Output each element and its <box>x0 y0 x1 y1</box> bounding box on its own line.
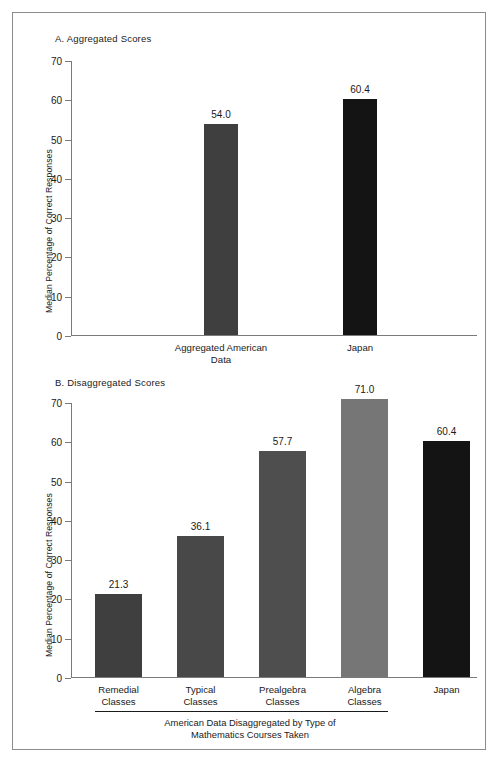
panel-b-category-label: AlgebraClasses <box>347 684 381 707</box>
panel-b-y-tick-label: 20 <box>51 594 62 605</box>
panel-b-bar: 71.0AlgebraClasses <box>341 399 388 677</box>
panel-a-y-tick-mark <box>65 257 71 258</box>
panel-b-y-tick-mark <box>65 560 71 561</box>
panel-a-category-label: Aggregated AmericanData <box>175 342 267 365</box>
panel-b-y-tick-label: 50 <box>51 476 62 487</box>
panel-a-y-tick-mark <box>65 179 71 180</box>
panel-a-y-tick-label: 30 <box>51 213 62 224</box>
panel-b-y-tick-mark <box>65 599 71 600</box>
panel-b-bar: 36.1TypicalClasses <box>177 536 224 677</box>
american-data-group-bracket <box>95 711 388 712</box>
panel-b-category-label: RemedialClasses <box>98 684 139 707</box>
panel-a-title: A. Aggregated Scores <box>55 33 151 44</box>
panel-a-y-tick-label: 40 <box>51 173 62 184</box>
panel-b-y-tick-mark <box>65 521 71 522</box>
panel-a-y-tick-label: 50 <box>51 134 62 145</box>
panel-a-y-tick-label: 20 <box>51 252 62 263</box>
panel-b-plot-area: 010203040506070 21.3RemedialClasses36.1T… <box>71 403 477 678</box>
panel-b-bar-value-label: 21.3 <box>109 579 128 590</box>
panel-b-bar: 57.7PrealgebraClasses <box>259 451 306 677</box>
panel-b-x-axis-line <box>71 677 477 678</box>
panel-a-category-label: Japan <box>347 342 373 354</box>
panel-b-category-label: Japan <box>433 684 459 696</box>
panel-b-y-tick-label: 40 <box>51 515 62 526</box>
panel-b-bar-value-label: 71.0 <box>355 384 374 395</box>
panel-a-y-tick-mark <box>65 61 71 62</box>
panel-b-bar-value-label: 36.1 <box>191 521 210 532</box>
panel-b-y-tick-mark <box>65 442 71 443</box>
panel-b-y-tick-label: 10 <box>51 633 62 644</box>
panel-a-y-tick-mark <box>65 218 71 219</box>
panel-b-y-tick-mark <box>65 403 71 404</box>
panel-b-title: B. Disaggregated Scores <box>55 377 165 388</box>
panel-a-y-tick-label: 70 <box>51 56 62 67</box>
panel-b-y-tick-label: 60 <box>51 437 62 448</box>
panel-b-y-tick-mark <box>65 482 71 483</box>
panel-b-x-axis-label: American Data Disaggregated by Type ofMa… <box>13 717 487 741</box>
panel-a-y-tick-mark <box>65 100 71 101</box>
panel-b-bar-value-label: 60.4 <box>437 426 456 437</box>
panel-b-bar: 60.4Japan <box>423 441 470 677</box>
panel-b-y-tick-label: 70 <box>51 398 62 409</box>
panel-b-bar: 21.3RemedialClasses <box>95 594 142 677</box>
panel-b-y-tick-label: 30 <box>51 555 62 566</box>
panel-a-x-axis-line <box>71 335 477 336</box>
panel-a-y-tick-label: 60 <box>51 95 62 106</box>
panel-a-plot-area: 010203040506070 54.0Aggregated AmericanD… <box>71 61 477 336</box>
panel-b-bar-value-label: 57.7 <box>273 436 292 447</box>
panel-b-category-label: PrealgebraClasses <box>259 684 306 707</box>
panel-b-y-tick-mark <box>65 639 71 640</box>
panel-a-bar-value-label: 54.0 <box>211 109 230 120</box>
panel-b-disaggregated-scores: B. Disaggregated Scores Median Percentag… <box>13 365 487 751</box>
panel-a-y-tick-label: 0 <box>56 331 62 342</box>
figure-frame: A. Aggregated Scores Median Percentage o… <box>12 12 486 750</box>
panel-a-bar: 60.4Japan <box>343 99 377 335</box>
panel-a-bar: 54.0Aggregated AmericanData <box>204 124 238 335</box>
panel-b-y-tick-label: 0 <box>56 673 62 684</box>
panel-a-aggregated-scores: A. Aggregated Scores Median Percentage o… <box>13 13 487 365</box>
panel-a-y-tick-mark <box>65 140 71 141</box>
panel-a-y-tick-label: 10 <box>51 291 62 302</box>
panel-a-y-axis-line <box>71 61 72 336</box>
panel-a-y-tick-mark <box>65 336 71 337</box>
panel-a-y-tick-mark <box>65 297 71 298</box>
panel-b-y-axis-line <box>71 403 72 678</box>
panel-b-y-tick-mark <box>65 678 71 679</box>
panel-a-bar-value-label: 60.4 <box>350 84 369 95</box>
panel-b-category-label: TypicalClasses <box>183 684 217 707</box>
